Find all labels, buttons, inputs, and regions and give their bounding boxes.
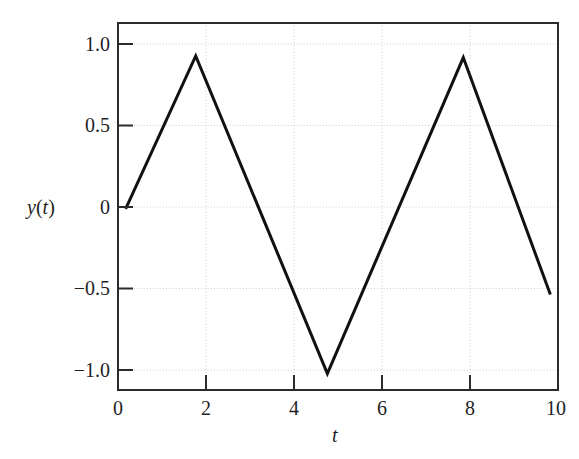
x-tick-label-4: 4 <box>274 398 314 418</box>
y-axis-title-y: y <box>27 196 36 218</box>
x-tick-label-2: 2 <box>186 398 226 418</box>
y-tick-label-1.0: 1.0 <box>58 34 110 54</box>
chart-plot-area <box>0 0 579 459</box>
x-tick-label-8: 8 <box>450 398 490 418</box>
y-axis-title-paren-open: ( <box>36 196 43 218</box>
y-axis-title: y(t) <box>27 197 55 217</box>
y-tick-label-minus-0.5: −0.5 <box>50 278 110 298</box>
y-tick-label-minus-1.0: −1.0 <box>50 360 110 380</box>
x-tick-label-0: 0 <box>98 398 138 418</box>
x-tick-label-10: 10 <box>536 398 576 418</box>
x-tick-label-6: 6 <box>362 398 402 418</box>
y-axis-title-paren-close: ) <box>48 196 55 218</box>
y-tick-label-0.5: 0.5 <box>58 115 110 135</box>
figure-container: 1.0 0.5 0 −0.5 −1.0 0 2 4 6 8 10 t y(t) <box>0 0 579 459</box>
x-axis-title: t <box>332 425 338 445</box>
y-tick-label-0: 0 <box>58 197 110 217</box>
